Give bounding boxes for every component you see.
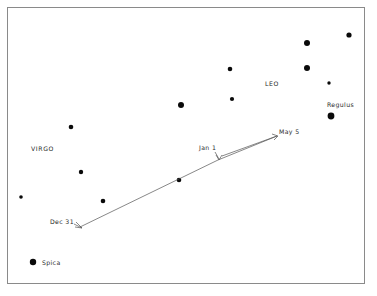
planet-path-return [222,136,277,156]
star-dot [19,195,23,199]
star-dot [304,40,310,46]
star-dot [304,65,310,71]
star-dot [178,102,184,108]
date-leaders [74,152,222,228]
star-dot [228,67,233,72]
star-chart: LEO VIRGO Regulus Spica Dec 31 Jan 1 May… [0,0,377,296]
star-dot-spica [30,259,36,265]
star-dot [346,32,351,37]
constellation-label-virgo: VIRGO [31,145,54,152]
star-label-regulus: Regulus [327,101,354,109]
sky-map-svg: LEO VIRGO Regulus Spica Dec 31 Jan 1 May… [0,0,377,296]
jan-1-leader [215,152,219,159]
star-dot-regulus [328,113,335,120]
star-dot [230,97,234,101]
date-label-may-5: May 5 [279,128,299,136]
date-label-jan-1: Jan 1 [198,144,216,152]
star-dot [79,170,83,174]
constellation-label-leo: LEO [265,80,279,87]
date-label-dec-31: Dec 31 [50,218,74,225]
star-dot [69,125,74,130]
star-dot [327,81,330,84]
star-field [19,32,351,265]
star-label-spica: Spica [42,259,61,267]
star-dot [101,199,106,204]
chart-frame [8,8,365,284]
